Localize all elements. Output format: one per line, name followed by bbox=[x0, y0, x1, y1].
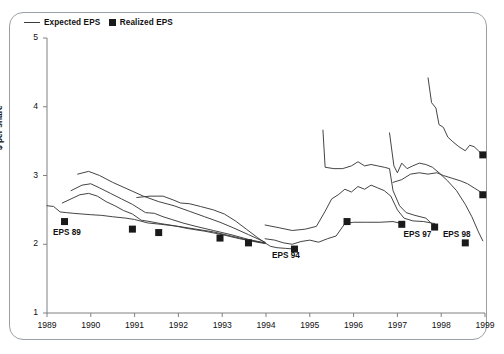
series-line bbox=[265, 222, 402, 245]
realized-eps-marker bbox=[61, 218, 68, 225]
annotation-eps-89: EPS 89 bbox=[53, 228, 81, 237]
x-axis-tick-1999: 1999 bbox=[465, 320, 504, 330]
chart-svg bbox=[0, 0, 504, 354]
y-axis-tick-1: 1 bbox=[16, 307, 38, 317]
realized-eps-marker bbox=[398, 221, 405, 228]
y-axis-tick-3: 3 bbox=[16, 170, 38, 180]
x-axis-tick-1990: 1990 bbox=[71, 320, 111, 330]
chart-plot-area: $ per share 1234519891990199119921993199… bbox=[0, 0, 504, 354]
realized-eps-marker bbox=[344, 218, 351, 225]
x-axis-tick-1997: 1997 bbox=[377, 320, 417, 330]
annotation-eps-98: EPS 98 bbox=[443, 230, 471, 239]
x-axis-tick-1996: 1996 bbox=[334, 320, 374, 330]
series-line bbox=[47, 206, 264, 243]
x-axis-tick-1994: 1994 bbox=[246, 320, 286, 330]
x-axis-tick-1991: 1991 bbox=[115, 320, 155, 330]
x-axis-tick-1995: 1995 bbox=[290, 320, 330, 330]
annotation-eps-97: EPS 97 bbox=[403, 230, 431, 239]
realized-eps-marker bbox=[217, 235, 224, 242]
series-line bbox=[428, 78, 483, 155]
series-line bbox=[71, 184, 265, 243]
x-axis-tick-1992: 1992 bbox=[158, 320, 198, 330]
series-line bbox=[323, 130, 435, 226]
y-axis-tick-5: 5 bbox=[16, 32, 38, 42]
realized-eps-marker bbox=[479, 151, 486, 158]
realized-eps-marker bbox=[245, 239, 252, 246]
x-axis-tick-1989: 1989 bbox=[27, 320, 67, 330]
series-line bbox=[393, 173, 483, 195]
x-axis-tick-1998: 1998 bbox=[421, 320, 461, 330]
realized-eps-marker bbox=[479, 191, 486, 198]
x-axis-tick-1993: 1993 bbox=[202, 320, 242, 330]
annotation-eps-94: EPS 94 bbox=[272, 251, 300, 260]
realized-eps-marker bbox=[431, 224, 438, 231]
realized-eps-marker bbox=[462, 239, 469, 246]
series-line bbox=[78, 171, 265, 242]
realized-eps-marker bbox=[129, 226, 136, 233]
y-axis-tick-4: 4 bbox=[16, 101, 38, 111]
realized-eps-marker bbox=[155, 229, 162, 236]
y-axis-tick-2: 2 bbox=[16, 238, 38, 248]
